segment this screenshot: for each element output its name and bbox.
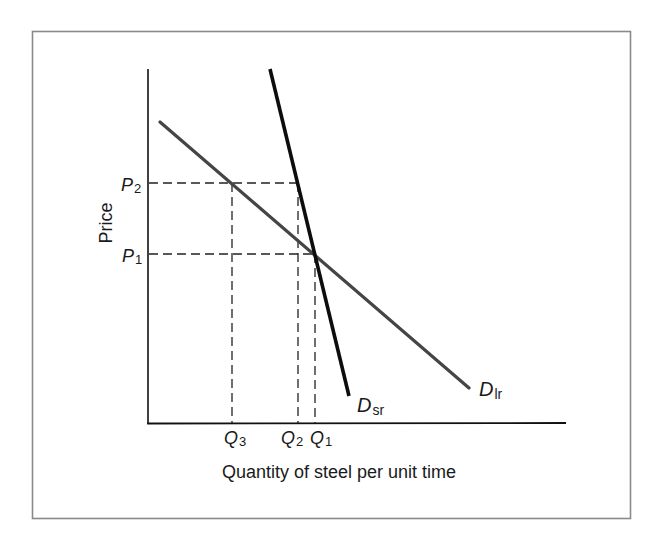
q3-label: Q3 bbox=[224, 428, 246, 449]
x-axis-label: Quantity of steel per unit time bbox=[222, 462, 456, 482]
q1-label: Q1 bbox=[310, 428, 332, 449]
dashed-guides bbox=[149, 183, 315, 423]
dsr-curve bbox=[270, 69, 349, 396]
q2-label: Q2 bbox=[281, 428, 303, 449]
demand-chart: Price P2 P1 Q3 Q2 Q1 Quantity of steel p… bbox=[0, 0, 661, 552]
x-axis bbox=[147, 423, 566, 424]
dsr-label: Dsr bbox=[357, 394, 384, 418]
y-axis-label: Price bbox=[96, 202, 116, 243]
p2-label: P2 bbox=[121, 175, 141, 196]
dlr-label: Dlr bbox=[479, 378, 503, 402]
p1-label: P1 bbox=[122, 246, 142, 267]
